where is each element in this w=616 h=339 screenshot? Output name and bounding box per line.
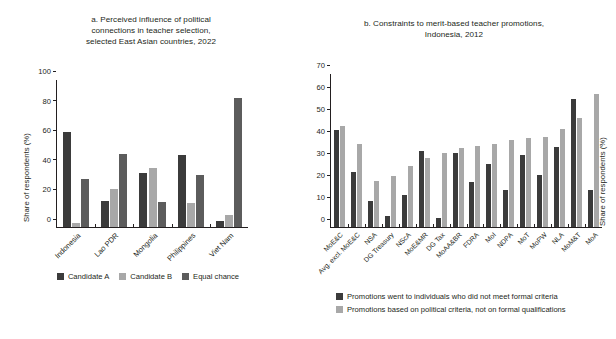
x-axis-tick-label: NLA [550,231,564,245]
bar [357,144,362,227]
bar [554,147,559,227]
y-tick-label: 100 [38,67,56,76]
bar [526,138,531,227]
bar [486,164,491,227]
legend-label: Candidate B [130,272,172,281]
panel-b-title: b. Constraints to merit-based teacher pr… [296,18,616,40]
bar-group [534,74,551,227]
x-axis-tick-label: Mongolia [131,231,159,259]
x-label-cell: DG Treasury [382,229,399,279]
bar [469,182,474,227]
panel-a-y-axis-title: Share of respondents (%) [22,133,31,222]
panel-b-x-axis-labels: MoE&CAvg. excl. MoE&CNSADG TreasuryNScAM… [331,229,602,279]
bar-group [95,80,133,227]
x-label-cell: NLA [551,229,568,279]
x-axis-tick-label: MoA [584,231,599,246]
bar [492,144,497,227]
x-axis-tick-label: Lao PDR [93,231,121,259]
bar-group [133,80,171,227]
bar-group [483,74,500,227]
bar [520,155,525,227]
panel-a-legend: Candidate ACandidate BEqual chance [0,272,296,281]
x-label-cell: Avg. excl. MoE&C [348,229,365,279]
x-label-cell: FDRA [467,229,484,279]
y-tick-label: 60 [43,126,56,135]
bar [110,189,118,227]
bar [72,223,80,227]
y-tick-label: 80 [43,96,56,105]
panel-b-plot-area: 010203040506070 [330,74,602,228]
bar [196,175,204,227]
y-tick-label: 30 [317,149,330,158]
bar-group [365,74,382,227]
bar [475,146,480,227]
x-label-cell: MoE&MR [416,229,433,279]
bar [368,201,373,227]
bar [571,99,576,227]
panel-b-legend: Promotions went to individuals who did n… [336,292,566,318]
panel-a-x-axis-line [56,227,248,228]
bar [391,176,396,227]
bar [436,218,441,227]
y-tick-label: 10 [317,193,330,202]
y-tick-label: 20 [317,171,330,180]
bar-group [416,74,433,227]
bar [216,221,224,227]
legend-swatch-icon [57,273,64,280]
panel-a-title: a. Perceived influence of political conn… [0,14,296,48]
bar [453,153,458,227]
bar [425,158,430,227]
bar [158,202,166,227]
legend-item: Candidate B [119,272,172,281]
legend-label: Equal chance [193,272,239,281]
x-label-cell: MoPW [534,229,551,279]
x-label-cell: MoI [483,229,500,279]
bar-group [585,74,602,227]
bar [187,203,195,227]
bar [178,155,186,227]
legend-swatch-icon [182,273,189,280]
legend-swatch-icon [336,306,343,313]
y-tick-label: 0 [47,215,56,224]
bar-group [210,80,248,227]
panel-b-bar-groups [331,74,602,227]
bar [402,195,407,227]
legend-item: Candidate A [57,272,109,281]
bar [560,129,565,227]
bar [63,132,71,227]
bar [374,181,379,227]
legend-swatch-icon [336,293,343,300]
y-tick-label: 50 [317,105,330,114]
bar [119,154,127,228]
legend-swatch-icon [119,273,126,280]
bar-group [57,80,95,227]
bar-group [331,74,348,227]
x-axis-tick-label: Viet Nam [207,231,235,259]
bar [537,175,542,227]
bar [408,166,413,227]
panel-a-perceived-influence: a. Perceived influence of political conn… [0,0,296,339]
figure-root: a. Perceived influence of political conn… [0,0,616,339]
y-tick-label: 20 [43,185,56,194]
bar [594,94,599,227]
legend-label: Promotions based on political criteria, … [347,305,566,314]
bar-group [433,74,450,227]
x-label-cell: MoA [585,229,602,279]
x-axis-tick-label: MoT [516,231,531,246]
x-label-cell: MoM&T [568,229,585,279]
panel-a-bar-groups [57,80,248,227]
bar [459,148,464,227]
bar-group [172,80,210,227]
bar [351,172,356,227]
x-label-cell: NDPA [500,229,517,279]
bar [543,137,548,227]
legend-label: Promotions went to individuals who did n… [347,292,558,301]
bar-group [500,74,517,227]
bar-group [551,74,568,227]
legend-item: Promotions based on political criteria, … [336,305,566,314]
bar [385,216,390,227]
legend-label: Candidate A [68,272,109,281]
panel-b-constraints: b. Constraints to merit-based teacher pr… [296,0,616,339]
x-axis-tick-label: Indonesia [53,231,82,260]
x-axis-tick-label: MoI [484,231,497,244]
